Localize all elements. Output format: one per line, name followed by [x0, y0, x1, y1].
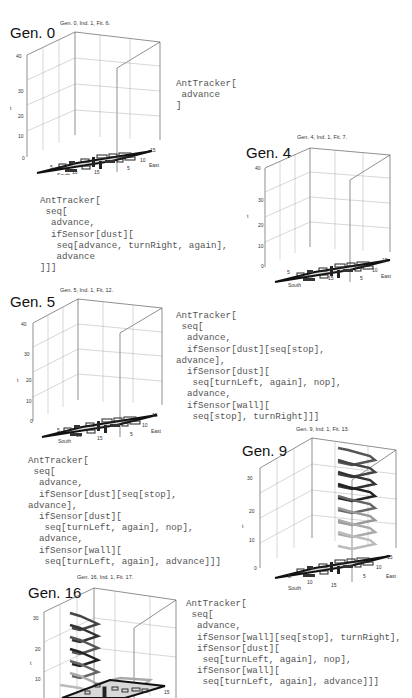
- code-block-gen-16: AntTracker[ seq[ advance, ifSensor[wall]…: [186, 598, 401, 688]
- svg-text:20: 20: [258, 222, 264, 228]
- svg-text:t: t: [247, 213, 249, 219]
- svg-text:t: t: [17, 377, 19, 383]
- svg-text:0: 0: [254, 565, 257, 571]
- plot-3d-chart: 403020100 t 51015 South 15105 East: [230, 120, 412, 295]
- code-block-gen-4: AntTracker[ seq[ advance, ifSensor[dust]…: [40, 195, 227, 273]
- svg-text:15: 15: [97, 435, 103, 441]
- svg-text:10: 10: [18, 133, 24, 139]
- svg-text:5: 5: [130, 431, 133, 437]
- svg-text:20: 20: [249, 508, 255, 514]
- svg-text:10: 10: [372, 267, 378, 273]
- svg-text:East: East: [151, 428, 162, 434]
- svg-text:15: 15: [150, 147, 156, 153]
- svg-text:15: 15: [164, 689, 170, 695]
- svg-text:10: 10: [26, 398, 32, 404]
- svg-text:10: 10: [249, 537, 255, 543]
- svg-text:30: 30: [18, 88, 24, 94]
- svg-text:30: 30: [258, 197, 264, 203]
- svg-text:South: South: [288, 585, 301, 591]
- svg-text:5: 5: [57, 427, 60, 433]
- svg-text:30: 30: [33, 615, 39, 621]
- svg-text:0: 0: [30, 418, 33, 424]
- svg-text:South: South: [57, 172, 70, 175]
- svg-text:East: East: [386, 573, 397, 579]
- svg-text:15: 15: [382, 257, 388, 263]
- svg-text:10: 10: [140, 157, 146, 163]
- svg-text:30: 30: [24, 351, 30, 357]
- trajectory-stack: [338, 448, 375, 549]
- svg-text:East: East: [149, 162, 160, 168]
- plot-panel-gen-4: Gen. 4 Gen. 4, Ind. 1, Fit. 7. 403020100…: [230, 120, 412, 295]
- svg-text:40: 40: [255, 165, 261, 171]
- z-tick: 40: [16, 53, 22, 59]
- svg-text:20: 20: [26, 377, 32, 383]
- svg-text:10: 10: [76, 432, 82, 438]
- svg-text:South: South: [288, 282, 301, 288]
- svg-text:40: 40: [21, 321, 27, 327]
- svg-text:South: South: [58, 438, 71, 444]
- plot-panel-gen-16: Gen. 16 Gen. 16, Ind. 1, Fit. 17.: [0, 560, 190, 698]
- svg-text:30: 30: [247, 475, 253, 481]
- plot-panel-gen-5: Gen. 5 Gen. 5, Ind. 1, Fit. 12. 40302010…: [0, 285, 180, 445]
- svg-text:5: 5: [50, 164, 53, 170]
- svg-text:10: 10: [35, 676, 41, 682]
- plot-panel-gen-9: Gen. 9 Gen. 9, Ind. 1, Fit. 13.: [230, 420, 412, 600]
- svg-text:t: t: [242, 523, 244, 529]
- svg-text:East: East: [381, 273, 392, 279]
- svg-text:10: 10: [376, 564, 382, 570]
- svg-text:20: 20: [35, 646, 41, 652]
- svg-text:15: 15: [94, 169, 100, 175]
- plot-3d-chart: 302010 t 15: [0, 560, 190, 698]
- svg-text:10: 10: [307, 274, 313, 280]
- svg-text:10: 10: [142, 422, 148, 428]
- code-block-gen-9: AntTracker[ seq[ advance, ifSensor[dust]…: [28, 455, 221, 567]
- svg-text:15: 15: [152, 412, 158, 418]
- svg-text:t: t: [30, 660, 32, 666]
- svg-text:5: 5: [127, 165, 130, 171]
- code-block-gen-0: AntTracker[ advance ]: [176, 78, 237, 112]
- svg-text:5: 5: [287, 269, 290, 275]
- svg-text:15: 15: [328, 275, 334, 281]
- plot-3d-chart: 403020100 t 51015 South 15105 East: [0, 285, 180, 445]
- svg-text:20: 20: [18, 113, 24, 119]
- svg-text:5: 5: [360, 275, 363, 281]
- svg-text:15: 15: [387, 554, 393, 560]
- svg-text:0: 0: [22, 155, 25, 161]
- svg-text:10: 10: [72, 169, 78, 175]
- code-block-gen-5: AntTracker[ seq[ advance, ifSensor[dust]…: [176, 310, 341, 422]
- svg-text:10: 10: [258, 243, 264, 249]
- svg-text:15: 15: [331, 582, 337, 588]
- svg-text:t: t: [10, 105, 12, 111]
- svg-text:5: 5: [288, 573, 291, 579]
- plot-3d-chart: 3020100 t 51015 South 15105 East: [230, 420, 412, 600]
- svg-text:0: 0: [261, 263, 264, 269]
- svg-text:5: 5: [363, 573, 366, 579]
- svg-text:10: 10: [307, 579, 313, 585]
